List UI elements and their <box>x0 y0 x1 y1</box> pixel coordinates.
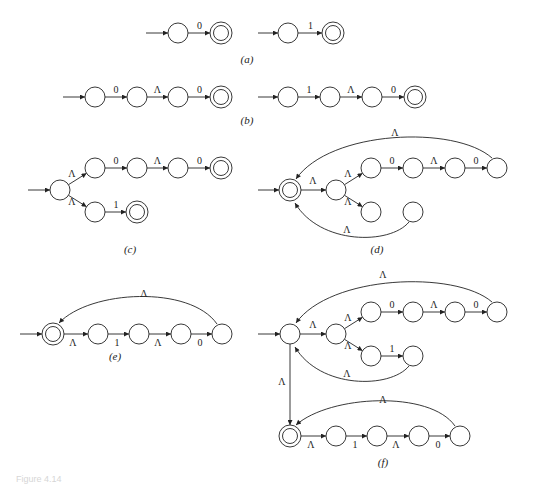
accepting-state-inner-ring <box>408 90 423 105</box>
transition-label: 0 <box>197 84 202 95</box>
transition-label: Λ <box>430 299 438 310</box>
accepting-state-inner-ring <box>214 90 229 105</box>
transition-label: 0 <box>390 299 395 310</box>
panel-caption: (b) <box>241 114 254 127</box>
transition-label: Λ <box>68 168 76 179</box>
transition-label: Λ <box>392 439 400 450</box>
state <box>487 302 507 322</box>
panel-caption: (f) <box>378 456 389 469</box>
transition-label: 0 <box>197 20 202 31</box>
transition-label: 0 <box>390 155 395 166</box>
transition-label: 1 <box>114 199 119 210</box>
transition-label: Λ <box>344 312 352 323</box>
state <box>278 23 298 43</box>
state <box>403 158 423 178</box>
transition-label: Λ <box>154 84 162 95</box>
state <box>280 324 300 344</box>
accepting-state-inner-ring <box>326 26 341 41</box>
transition-label: Λ <box>69 337 77 348</box>
state <box>278 87 298 107</box>
state <box>409 426 429 446</box>
panel-caption: (a) <box>241 53 254 66</box>
transition-label: Λ <box>344 168 352 179</box>
transition-label: Λ <box>344 196 352 207</box>
panel-c: ΛΛ0Λ01(c) <box>28 155 232 256</box>
state <box>361 202 381 222</box>
transition-label: 0 <box>391 84 396 95</box>
transition-label: Λ <box>343 368 351 379</box>
state <box>326 426 346 446</box>
transition-label: Λ <box>343 224 351 235</box>
state <box>403 302 423 322</box>
accepting-state-inner-ring <box>283 183 298 198</box>
transition-label: Λ <box>154 337 162 348</box>
state <box>361 158 381 178</box>
transition-label: 0 <box>114 84 119 95</box>
panel-caption: (d) <box>371 243 384 256</box>
accepting-state-inner-ring <box>130 205 145 220</box>
panel-caption: (e) <box>109 350 122 363</box>
panel-d: ΛΛΛ0Λ0ΛΛ(d) <box>258 127 507 256</box>
state <box>403 202 423 222</box>
state <box>445 302 465 322</box>
transition-label: Λ <box>379 269 387 280</box>
state <box>367 426 387 446</box>
nfa-figure: 01(a)0Λ01Λ0(b)ΛΛ0Λ01(c)ΛΛΛ0Λ0ΛΛ(d)Λ1Λ0Λ(… <box>0 0 533 486</box>
transition-label: 0 <box>474 155 479 166</box>
state <box>445 158 465 178</box>
state <box>171 324 191 344</box>
state <box>168 23 188 43</box>
transition-label: 1 <box>353 439 358 450</box>
transition-label: Λ <box>154 155 162 166</box>
transition-label: Λ <box>309 175 317 186</box>
state <box>168 158 188 178</box>
accepting-state-inner-ring <box>46 327 61 342</box>
transition-label: Λ <box>344 340 352 351</box>
state <box>362 87 382 107</box>
diagram-root: 01(a)0Λ01Λ0(b)ΛΛ0Λ01(c)ΛΛΛ0Λ0ΛΛ(d)Λ1Λ0Λ(… <box>20 20 507 469</box>
transition-label: 0 <box>198 337 203 348</box>
state <box>168 87 188 107</box>
state <box>361 302 381 322</box>
state <box>403 346 423 366</box>
state <box>50 180 70 200</box>
transition-label: Λ <box>140 288 148 299</box>
panel-e: Λ1Λ0Λ(e) <box>20 288 232 363</box>
state <box>88 324 108 344</box>
state <box>85 202 105 222</box>
panel-a: 01(a) <box>146 20 344 66</box>
state <box>487 158 507 178</box>
accepting-state-inner-ring <box>283 429 298 444</box>
transition-label: Λ <box>307 439 315 450</box>
state <box>127 87 147 107</box>
accepting-state-inner-ring <box>214 161 229 176</box>
state <box>326 324 346 344</box>
transition-label: Λ <box>347 84 355 95</box>
transition-label: 1 <box>115 337 120 348</box>
state <box>212 324 232 344</box>
state <box>361 346 381 366</box>
transition-label: Λ <box>379 394 387 405</box>
transition-label: 1 <box>390 343 395 354</box>
transition-label: 0 <box>474 299 479 310</box>
panel-b: 0Λ01Λ0(b) <box>63 84 426 127</box>
lambda-loop-arrow <box>59 296 217 324</box>
panel-f: ΛΛΛ0Λ01ΛΛ1Λ0ΛΛΛ(f) <box>258 269 507 469</box>
transition-label: 0 <box>114 155 119 166</box>
transition-label: 0 <box>436 439 441 450</box>
transition-label: Λ <box>391 127 399 138</box>
transition-label: Λ <box>309 319 317 330</box>
state <box>85 158 105 178</box>
state <box>127 158 147 178</box>
state <box>129 324 149 344</box>
transition-label: Λ <box>430 155 438 166</box>
state <box>450 426 470 446</box>
state <box>320 87 340 107</box>
transition-label: 1 <box>307 84 312 95</box>
panel-caption: (c) <box>124 243 137 256</box>
lambda-loop-arrow <box>295 203 409 237</box>
transition-label: 0 <box>197 155 202 166</box>
transition-label: 1 <box>308 20 313 31</box>
state <box>85 87 105 107</box>
transition-label: Λ <box>278 376 286 387</box>
